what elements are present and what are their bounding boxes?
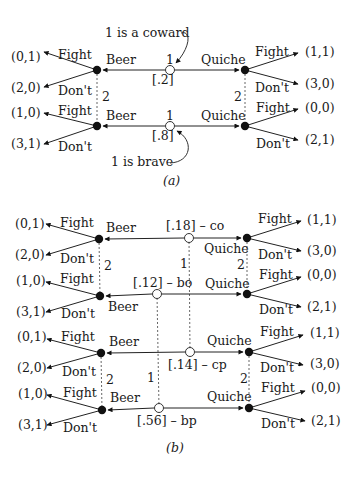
payoff: (2,0) [11,80,41,95]
action-label: Fight [261,380,295,395]
payoff: (3,0) [305,76,335,91]
action-label: Fight [260,324,294,339]
action-label: Fight [60,215,94,230]
chance-node [153,290,162,299]
receiver-node [97,349,105,357]
info-set-sender-b [157,294,159,408]
receiver-node [96,292,104,300]
payoff: (1,1) [307,212,337,227]
action-label: Fight [258,211,292,226]
type-bp: [.56] – bp Beer Quiche Fight Don't Fight… [18,380,341,435]
player-label: 2 [237,257,245,272]
action-label: Fight [63,385,97,400]
beer-edge [105,238,184,239]
payoff: (2,1) [307,299,337,314]
beer-edge [106,294,152,296]
payoff: (0,1) [17,329,47,344]
receiver-node [98,406,106,414]
action-label: Don't [62,364,96,379]
receiver-node [241,66,249,74]
player-label: 2 [102,89,110,104]
payoff: (0,0) [311,380,341,395]
player-label: 1 [147,370,155,385]
type-coward: 1 [.2] 1 is a coward Beer Quiche Fight D… [11,25,335,98]
action-label: Fight [61,329,95,344]
payoff: (3,0) [310,356,340,371]
type-cp: [.14] – cp Beer Quiche Fight Don't Fight… [17,324,340,379]
move-label: Beer [106,52,136,67]
annotation: 1 is brave [111,154,173,169]
payoff: (3,1) [16,304,46,319]
move-label: Quiche [207,333,252,348]
payoff: (1,1) [305,44,335,59]
payoff: (1,1) [310,325,340,340]
payoff: (3,0) [307,243,337,258]
receiver-node [245,348,253,356]
info-set-beer-bottom [101,353,102,410]
payoff: (2,1) [305,132,335,147]
move-label: Quiche [207,389,252,404]
panel-a: 1 [.2] 1 is a coward Beer Quiche Fight D… [11,25,335,188]
action-label: Don't [58,83,92,98]
probability-label: [.8] [152,128,174,143]
type-label: [.18] – co [166,218,224,233]
payoff: (0,1) [11,49,41,64]
signaling-game-diagram: 1 [.2] 1 is a coward Beer Quiche Fight D… [0,0,351,477]
payoff: (2,0) [17,360,47,375]
action-label: Don't [63,420,97,435]
type-brave: 1 [.8] 1 is brave Beer Quiche Fight Don'… [11,100,335,169]
payoff: (2,1) [311,413,341,428]
action-label: Don't [58,139,92,154]
receiver-node [243,290,251,298]
info-set-sender-o [189,238,190,352]
chance-node [155,404,164,413]
move-label: Quiche [201,108,246,123]
action-label: Don't [261,416,295,431]
probability-label: [.2] [152,72,174,87]
player-label: 1 [180,256,188,271]
beer-edge [107,352,185,353]
annotation: 1 is a coward [105,25,189,40]
panel-caption: (a) [163,173,180,188]
move-label: Quiche [204,241,249,256]
player-label: 2 [104,258,112,273]
receiver-node [93,66,101,74]
payoff: (3,1) [18,417,48,432]
move-label: Beer [106,220,136,235]
action-label: Don't [260,360,294,375]
action-label: Don't [259,302,293,317]
player-label: 1 [166,108,174,123]
type-label: [.56] – bp [137,413,197,428]
move-label: Quiche [205,276,250,291]
beer-edge [108,408,154,410]
payoff: (3,1) [11,136,41,151]
type-bo: [.12] – bo Beer Quiche Fight Don't Fight… [16,267,337,321]
action-label: Don't [258,247,292,262]
move-label: Beer [108,299,138,314]
action-label: Don't [255,80,289,95]
payoff: (0,0) [305,100,335,115]
move-label: Beer [106,108,136,123]
action-label: Fight [58,47,92,62]
panel-b: [.18] – co Beer Quiche Fight Don't Fight… [15,211,341,455]
chance-node [186,348,195,357]
player-label: 2 [234,89,242,104]
info-set-beer-top [99,239,100,296]
action-label: Don't [61,306,95,321]
player-label: 2 [240,371,248,386]
receiver-node [241,122,249,130]
player-label: 1 [166,52,174,67]
action-label: Fight [58,103,92,118]
receiver-node [95,235,103,243]
action-label: Fight [60,271,94,286]
payoff: (1,0) [18,386,48,401]
payoff: (2,0) [15,247,45,262]
type-label: [.12] – bo [133,275,192,290]
type-co: [.18] – co Beer Quiche Fight Don't Fight… [15,211,337,266]
move-label: Beer [109,334,139,349]
action-label: Don't [256,136,290,151]
panel-caption: (b) [166,440,184,455]
action-label: Fight [259,267,293,282]
action-label: Fight [255,44,289,59]
receiver-node [93,122,101,130]
